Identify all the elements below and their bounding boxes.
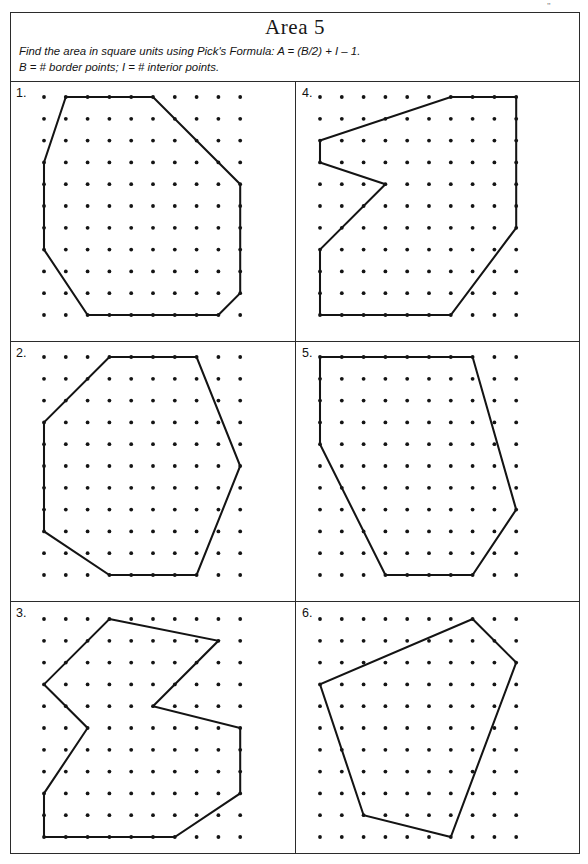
polygon-outline xyxy=(320,97,516,315)
instruction-line-2: B = # border points; I = # interior poin… xyxy=(19,59,580,75)
geoboard-3 xyxy=(10,602,295,854)
geoboard-6 xyxy=(296,602,580,854)
problem-cell-4: 4. xyxy=(296,82,580,342)
polygon-outline xyxy=(320,619,516,837)
dot-lattice xyxy=(318,95,518,317)
worksheet-header: Area 5 Find the area in square units usi… xyxy=(10,12,580,82)
geoboard-2 xyxy=(10,342,295,601)
dot-lattice xyxy=(42,355,242,577)
page-title: Area 5 xyxy=(10,12,580,39)
problem-cell-3: 3. xyxy=(10,602,296,854)
dot-lattice xyxy=(42,95,242,317)
problem-cell-2: 2. xyxy=(10,342,296,602)
instructions-block: Find the area in square units using Pick… xyxy=(10,39,580,75)
geoboard-4 xyxy=(296,82,580,341)
instruction-line-1: Find the area in square units using Pick… xyxy=(19,43,580,59)
worksheet-page: " Area 5 Find the area in square units u… xyxy=(0,0,588,864)
problem-cell-5: 5. xyxy=(296,342,580,602)
polygon-outline xyxy=(320,357,516,575)
polygon-outline xyxy=(44,619,240,837)
problem-cell-1: 1. xyxy=(10,82,296,342)
problem-grid: 1. 4. 2. 5. 3. 6. xyxy=(10,82,580,854)
geoboard-1 xyxy=(10,82,295,341)
geoboard-5 xyxy=(296,342,580,601)
dot-lattice xyxy=(318,617,518,839)
polygon-outline xyxy=(44,357,240,575)
problem-cell-6: 6. xyxy=(296,602,580,854)
dot-lattice xyxy=(42,617,242,839)
polygon-outline xyxy=(44,97,240,315)
dot-lattice xyxy=(318,355,518,577)
page-corner-mark: " xyxy=(547,1,552,11)
